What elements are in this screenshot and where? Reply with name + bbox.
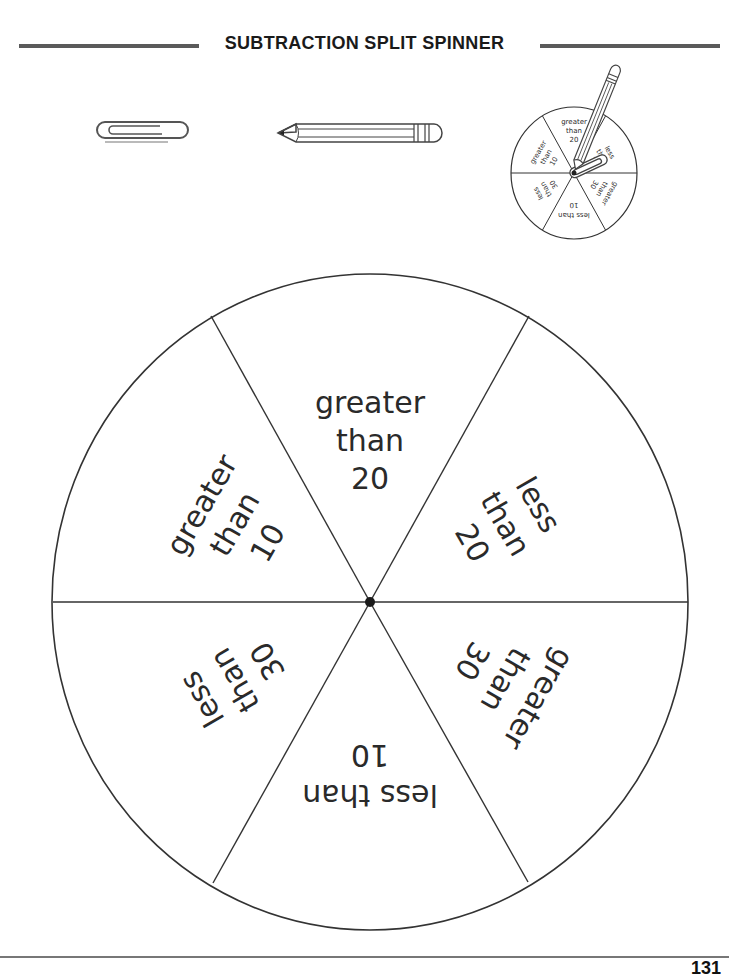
segment-label-line: than [336,423,404,458]
spinner-wheel[interactable]: greater than 20 less than 20 greater tha… [52,274,688,930]
segment-label-line: greater [315,385,426,420]
paperclip-icon [97,122,188,142]
svg-text:greater: greater [561,118,587,126]
segment-label-line: less than [302,778,438,813]
page-number: 131 [691,959,721,977]
svg-text:20: 20 [570,136,579,144]
footer-rule [0,956,729,958]
spinner-example-icon: greaterthan20 lessthan20 greaterthan30 l… [511,64,637,239]
spinner-center-dot[interactable] [365,597,375,607]
segment-label-line: 10 [351,738,389,773]
svg-text:than: than [566,127,582,135]
svg-text:10: 10 [570,201,579,209]
segment-label-line: 20 [351,461,389,496]
pencil-icon [278,124,442,142]
svg-text:less than: less than [558,211,590,219]
